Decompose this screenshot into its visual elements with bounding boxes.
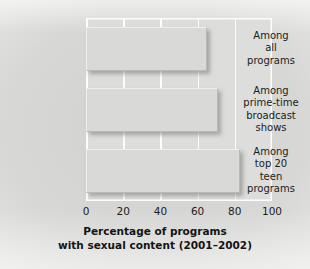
- category-label-2-line-0: Among: [232, 146, 310, 158]
- x-tick-label-0: 0: [66, 205, 106, 217]
- category-label-2-line-2: teen: [232, 171, 310, 183]
- bar-1: [86, 88, 218, 132]
- category-label-0: Amongallprograms: [232, 30, 310, 67]
- category-label-1-line-0: Among: [232, 85, 310, 97]
- x-tick-label-60: 60: [178, 205, 218, 217]
- category-label-1: Amongprime-timebroadcastshows: [232, 85, 310, 134]
- x-tick-label-40: 40: [140, 205, 180, 217]
- category-label-0-line-1: all: [232, 42, 310, 54]
- chart-figure: AmongallprogramsAmongprime-timebroadcast…: [0, 0, 310, 269]
- x-axis-title-line-1: Percentage of programs: [83, 225, 227, 237]
- bar-2: [86, 149, 240, 193]
- x-tick-label-80: 80: [215, 205, 255, 217]
- x-axis-title-line-2: with sexual content (2001–2002): [58, 239, 252, 251]
- category-label-2-line-1: top 20: [232, 158, 310, 170]
- category-label-2: Amongtop 20teenprograms: [232, 146, 310, 195]
- x-axis-title: Percentage of programswith sexual conten…: [0, 224, 310, 252]
- category-label-1-line-3: shows: [232, 122, 310, 134]
- category-label-2-line-3: programs: [232, 183, 310, 195]
- category-label-0-line-2: programs: [232, 55, 310, 67]
- x-tick-label-100: 100: [252, 205, 292, 217]
- bar-0: [86, 27, 207, 71]
- category-label-0-line-0: Among: [232, 30, 310, 42]
- x-tick-label-20: 20: [103, 205, 143, 217]
- category-label-1-line-2: broadcast: [232, 110, 310, 122]
- category-label-1-line-1: prime-time: [232, 97, 310, 109]
